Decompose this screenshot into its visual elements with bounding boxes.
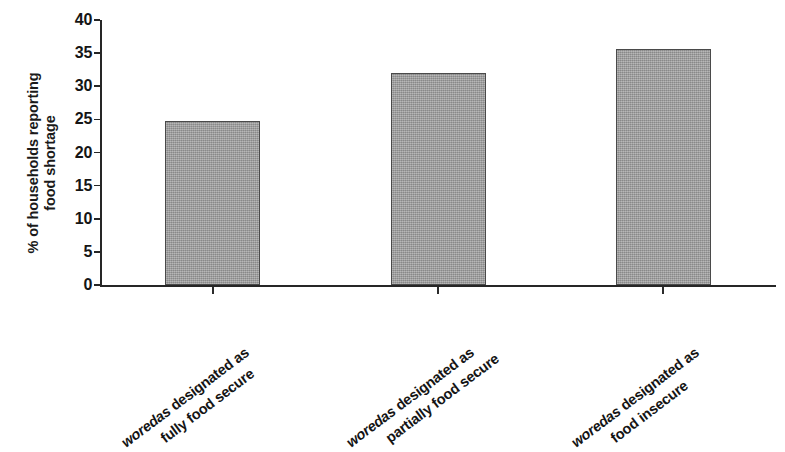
bar	[616, 49, 711, 285]
y-axis-tick-mark	[94, 85, 100, 87]
bar	[165, 121, 260, 285]
x-axis-tick-mark	[437, 287, 439, 294]
y-axis-tick-mark	[94, 19, 100, 21]
y-axis-tick-mark	[94, 284, 100, 286]
y-axis-tick-mark	[94, 152, 100, 154]
y-axis-tick-mark	[94, 52, 100, 54]
y-axis-tick-mark	[94, 251, 100, 253]
bar	[391, 73, 486, 285]
y-axis-line	[100, 20, 102, 286]
x-axis-tick-mark	[662, 287, 664, 294]
y-axis-tick-mark	[94, 119, 100, 121]
x-axis-tick-mark	[212, 287, 214, 294]
y-axis-tick-mark	[94, 185, 100, 187]
y-axis-tick-mark	[94, 218, 100, 220]
